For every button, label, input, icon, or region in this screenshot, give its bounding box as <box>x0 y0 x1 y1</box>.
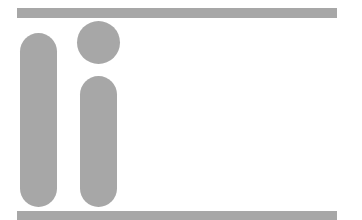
left-pill-shape <box>20 33 57 207</box>
top-bar <box>17 8 337 18</box>
dot-circle-shape <box>77 21 120 64</box>
right-pill-shape <box>80 76 117 207</box>
bottom-bar <box>17 211 337 220</box>
